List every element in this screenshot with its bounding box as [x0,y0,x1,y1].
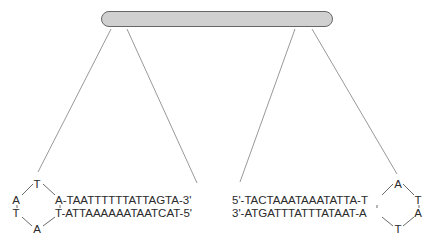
left-loop-base-left-lower: T [11,207,21,219]
left-loop-edge [43,217,55,226]
right-upper-strand: 5'-TACTAAATAAATATTA-T [232,194,368,206]
right-loop-edge [382,184,393,195]
left-loop-base-top: T [32,178,42,190]
left-lower-strand: T-ATTAAAAAATAATCAT-5' [55,207,192,219]
right-lower-strand: 3'-ATGATTTATTTATAAT-A [232,207,367,219]
right-loop-base-right-lower: A [413,207,423,219]
right-loop-base-right-upper: T [413,194,423,206]
left-loop-edge [43,184,55,195]
right-loop-edge [382,217,393,226]
diagram-canvas: T A T A A-TAATTTTTTATTAGTA-3' T-ATTAAAAA… [0,0,434,250]
left-loop-base-bottom: A [32,223,42,235]
left-loop-base-left-upper: A [11,194,21,206]
right-connector-outer [312,29,397,174]
left-upper-strand: A-TAATTTTTTATTAGTA-3' [55,194,191,206]
left-loop-edge [22,217,32,226]
left-connector-outer [38,29,111,172]
right-loop-base-top: A [393,178,403,190]
right-connector-inner [240,29,295,182]
right-loop-base-bottom: T [393,223,403,235]
left-connector-inner [127,29,197,183]
